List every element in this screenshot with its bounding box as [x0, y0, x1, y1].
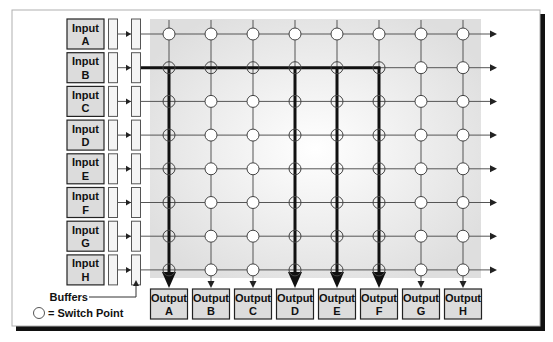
buffer	[109, 120, 118, 150]
switch-matrix-background	[150, 19, 481, 278]
switch-point[interactable]	[247, 95, 259, 107]
switch-point[interactable]	[289, 28, 301, 40]
buffer	[109, 154, 118, 184]
output-a: OutputA	[151, 289, 188, 319]
input-letter: D	[82, 136, 90, 148]
output-e: OutputE	[319, 289, 356, 319]
buffer	[132, 188, 141, 218]
switch-point[interactable]	[205, 163, 217, 175]
input-label: Input	[72, 224, 99, 236]
switch-point[interactable]	[457, 230, 469, 242]
input-letter: F	[82, 204, 89, 216]
switch-point-label: = Switch Point	[48, 307, 124, 319]
switch-point[interactable]	[415, 62, 427, 74]
switch-point[interactable]	[415, 163, 427, 175]
switch-point[interactable]	[415, 95, 427, 107]
switch-point[interactable]	[163, 28, 175, 40]
switch-point[interactable]	[205, 28, 217, 40]
output-letter: H	[459, 305, 467, 317]
buffer	[132, 221, 141, 251]
switch-point[interactable]	[457, 197, 469, 209]
output-g: OutputG	[403, 289, 440, 319]
output-label: Output	[445, 292, 481, 304]
switch-point[interactable]	[205, 197, 217, 209]
output-letter: B	[207, 305, 215, 317]
switch-point[interactable]	[205, 230, 217, 242]
switch-point[interactable]	[205, 264, 217, 276]
switch-point[interactable]	[247, 28, 259, 40]
switch-point[interactable]	[331, 28, 343, 40]
switch-point[interactable]	[415, 129, 427, 141]
output-b: OutputB	[193, 289, 230, 319]
output-letter: A	[165, 305, 173, 317]
buffers-label: Buffers	[49, 291, 88, 303]
buffer	[132, 19, 141, 49]
input-label: Input	[72, 156, 99, 168]
switch-point[interactable]	[457, 264, 469, 276]
output-label: Output	[403, 292, 439, 304]
input-letter: B	[82, 69, 90, 81]
switch-point[interactable]	[247, 230, 259, 242]
output-letter: D	[291, 305, 299, 317]
input-label: Input	[72, 190, 99, 202]
output-f: OutputF	[361, 289, 398, 319]
buffer	[109, 19, 118, 49]
output-h: OutputH	[445, 289, 482, 319]
switch-point[interactable]	[457, 28, 469, 40]
output-d: OutputD	[277, 289, 314, 319]
input-label: Input	[72, 22, 99, 34]
buffer	[109, 86, 118, 116]
buffer	[109, 188, 118, 218]
input-letter: E	[82, 170, 89, 182]
output-letter: E	[333, 305, 340, 317]
buffer	[109, 255, 118, 285]
switch-point[interactable]	[247, 129, 259, 141]
output-label: Output	[151, 292, 187, 304]
output-c: OutputC	[235, 289, 272, 319]
output-label: Output	[319, 292, 355, 304]
buffer	[109, 53, 118, 83]
output-label: Output	[277, 292, 313, 304]
input-letter: G	[81, 237, 90, 249]
switch-point[interactable]	[247, 163, 259, 175]
switch-point-legend-icon	[34, 308, 45, 319]
diagram-canvas: InputAInputBInputCInputDInputEInputFInpu…	[0, 0, 553, 342]
output-label: Output	[193, 292, 229, 304]
buffer	[132, 86, 141, 116]
switch-point[interactable]	[457, 62, 469, 74]
output-label: Output	[235, 292, 271, 304]
output-letter: C	[249, 305, 257, 317]
switch-point[interactable]	[415, 28, 427, 40]
buffer	[132, 53, 141, 83]
switch-point[interactable]	[457, 95, 469, 107]
output-letter: F	[376, 305, 383, 317]
input-label: Input	[72, 89, 99, 101]
input-label: Input	[72, 257, 99, 269]
input-letter: H	[82, 271, 90, 283]
switch-point[interactable]	[457, 129, 469, 141]
buffer	[132, 154, 141, 184]
switch-point[interactable]	[205, 95, 217, 107]
switch-point[interactable]	[415, 264, 427, 276]
input-label: Input	[72, 123, 99, 135]
output-label: Output	[361, 292, 397, 304]
switch-point[interactable]	[247, 264, 259, 276]
output-letter: G	[417, 305, 426, 317]
switch-point[interactable]	[205, 129, 217, 141]
input-label: Input	[72, 55, 99, 67]
buffer	[132, 120, 141, 150]
crossbar-diagram: InputAInputBInputCInputDInputEInputFInpu…	[0, 0, 553, 342]
switch-point[interactable]	[415, 197, 427, 209]
switch-point[interactable]	[373, 28, 385, 40]
input-letter: C	[82, 102, 90, 114]
switch-point[interactable]	[415, 230, 427, 242]
input-letter: A	[82, 35, 90, 47]
switch-point[interactable]	[247, 197, 259, 209]
switch-point[interactable]	[457, 163, 469, 175]
buffer	[109, 221, 118, 251]
